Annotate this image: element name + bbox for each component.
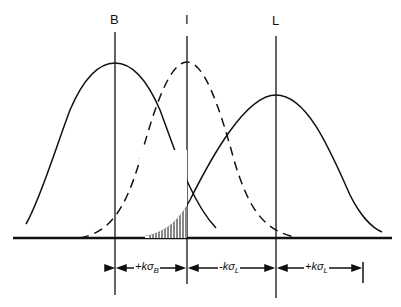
dimension-minus-k-sigma-l: -kσL: [218, 260, 240, 275]
distribution-diagram: [0, 0, 401, 307]
label-l: L: [272, 13, 279, 28]
dimension-plus-k-sigma-b: +kσB: [134, 260, 160, 275]
curve-i: [80, 62, 300, 238]
label-b: B: [110, 12, 119, 27]
diagram-canvas: B I L +kσB -kσL +kσL: [0, 0, 401, 307]
label-i: I: [185, 12, 189, 27]
dimension-plus-k-sigma-l: +kσL: [304, 260, 329, 275]
overlap-shading: [140, 150, 190, 238]
